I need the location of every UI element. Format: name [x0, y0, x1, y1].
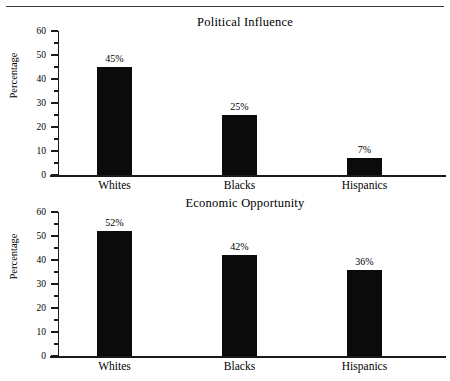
x-category-label: Blacks	[195, 360, 285, 373]
bar	[97, 67, 132, 175]
y-tick-major	[51, 211, 58, 212]
y-tick-major	[51, 307, 58, 308]
y-tick-minor	[54, 90, 58, 91]
bar-value-label: 25%	[210, 102, 270, 112]
bar	[347, 270, 382, 356]
y-tick-label: 0	[18, 170, 46, 180]
x-axis-line	[50, 356, 446, 358]
y-tick-label: 20	[18, 303, 46, 313]
plot-area: 0102030405060 52%42%36% WhitesBlacksHisp…	[0, 191, 450, 381]
y-tick-label: 10	[18, 146, 46, 156]
plot-area: 0102030405060 45%25%7% WhitesBlacksHispa…	[0, 10, 450, 200]
y-tick-major	[51, 126, 58, 127]
y-tick-minor	[54, 114, 58, 115]
y-tick-label: 50	[18, 50, 46, 60]
x-category-label: Blacks	[195, 179, 285, 192]
chart-political-influence: Political Influence Percentage 010203040…	[0, 10, 450, 200]
y-tick-minor	[54, 42, 58, 43]
y-tick-label: 0	[18, 351, 46, 361]
y-tick-minor	[54, 343, 58, 344]
bar-value-label: 42%	[210, 242, 270, 252]
y-tick-minor	[54, 271, 58, 272]
y-tick-major	[51, 331, 58, 332]
y-tick-major	[51, 259, 58, 260]
y-tick-minor	[54, 223, 58, 224]
y-tick-label: 10	[18, 327, 46, 337]
y-tick-major	[51, 355, 58, 356]
bar	[222, 115, 257, 175]
y-axis-line	[58, 31, 59, 176]
bar	[97, 231, 132, 356]
y-tick-major	[51, 235, 58, 236]
bar	[222, 255, 257, 356]
y-tick-label: 30	[18, 279, 46, 289]
x-category-label: Whites	[70, 179, 160, 192]
y-axis-line	[58, 212, 59, 357]
y-tick-major	[51, 30, 58, 31]
bar-value-label: 36%	[335, 257, 395, 267]
y-tick-label: 40	[18, 74, 46, 84]
y-tick-minor	[54, 319, 58, 320]
y-tick-major	[51, 283, 58, 284]
figure-canvas: Political Influence Percentage 010203040…	[0, 0, 450, 381]
y-tick-label: 60	[18, 207, 46, 217]
y-tick-minor	[54, 162, 58, 163]
y-tick-major	[51, 174, 58, 175]
x-category-label: Hispanics	[320, 360, 410, 373]
y-tick-minor	[54, 66, 58, 67]
y-tick-label: 60	[18, 26, 46, 36]
y-tick-label: 40	[18, 255, 46, 265]
y-tick-major	[51, 78, 58, 79]
x-axis-line	[50, 175, 446, 177]
bar-value-label: 45%	[85, 54, 145, 64]
bar	[347, 158, 382, 175]
y-tick-major	[51, 102, 58, 103]
y-tick-major	[51, 54, 58, 55]
y-tick-label: 20	[18, 122, 46, 132]
x-category-label: Hispanics	[320, 179, 410, 192]
y-tick-minor	[54, 247, 58, 248]
y-tick-minor	[54, 295, 58, 296]
bar-value-label: 52%	[85, 218, 145, 228]
y-tick-label: 30	[18, 98, 46, 108]
bar-value-label: 7%	[335, 145, 395, 155]
y-tick-major	[51, 150, 58, 151]
x-category-label: Whites	[70, 360, 160, 373]
y-tick-minor	[54, 138, 58, 139]
y-tick-label: 50	[18, 231, 46, 241]
top-horizontal-rule	[6, 6, 444, 7]
chart-economic-opportunity: Economic Opportunity Percentage 01020304…	[0, 191, 450, 381]
